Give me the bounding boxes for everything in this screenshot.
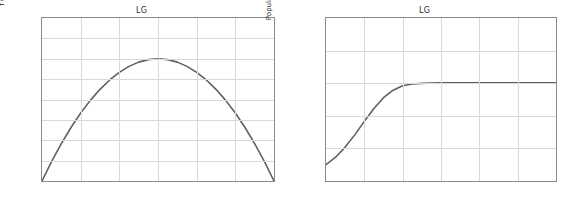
x-tick-label: 5 bbox=[516, 181, 520, 182]
y-tick-label: 50 bbox=[41, 157, 42, 165]
y-axis-label-left: f (N) bbox=[0, 0, 6, 6]
x-tick-mark bbox=[235, 181, 236, 182]
x-tick-label: 1 bbox=[362, 181, 366, 182]
x-tick-mark bbox=[158, 181, 159, 182]
chart-panel-left: LG 0501001502002503003504000100200300400… bbox=[0, 0, 283, 208]
gridline-vertical bbox=[479, 18, 480, 181]
x-tick-label: 200 bbox=[113, 181, 125, 182]
x-tick-mark bbox=[80, 181, 81, 182]
x-tick-mark bbox=[364, 181, 365, 182]
y-tick-label: 300 bbox=[41, 55, 42, 63]
y-tick-label: 800 bbox=[325, 47, 326, 55]
y-tick-label: 250 bbox=[41, 75, 42, 83]
x-tick-label: 500 bbox=[229, 181, 241, 182]
gridline-vertical bbox=[518, 18, 519, 181]
gridline-vertical bbox=[441, 18, 442, 181]
x-tick-mark bbox=[42, 181, 43, 182]
x-tick-label: 4 bbox=[477, 181, 481, 182]
gridline-vertical bbox=[119, 18, 120, 181]
x-tick-label: 2 bbox=[401, 181, 405, 182]
gridline-vertical bbox=[403, 18, 404, 181]
y-axis-label-right: Population N bbox=[265, 0, 273, 20]
x-tick-mark bbox=[119, 181, 120, 182]
plot-area-left: 0501001502002503003504000100200300400500… bbox=[41, 17, 275, 182]
x-tick-label: 100 bbox=[74, 181, 86, 182]
gridline-vertical bbox=[364, 18, 365, 181]
x-tick-label: 3 bbox=[439, 181, 443, 182]
y-tick-label: 0 bbox=[325, 177, 326, 182]
chart-title-left: LG bbox=[0, 6, 283, 15]
y-tick-label: 600 bbox=[325, 79, 326, 87]
gridline-vertical bbox=[197, 18, 198, 181]
y-tick-label: 400 bbox=[325, 112, 326, 120]
y-tick-label: 100 bbox=[41, 136, 42, 144]
y-tick-label: 200 bbox=[325, 144, 326, 152]
gridline-vertical bbox=[235, 18, 236, 181]
y-tick-label: 400 bbox=[41, 17, 42, 22]
y-tick-label: 150 bbox=[41, 116, 42, 124]
y-tick-label: 200 bbox=[41, 96, 42, 104]
y-tick-label: 1000 bbox=[325, 17, 326, 22]
figure-row: LG 0501001502002503003504000100200300400… bbox=[0, 0, 566, 208]
x-tick-label: 6 bbox=[554, 181, 557, 182]
y-tick-label: 350 bbox=[41, 34, 42, 42]
gridline-vertical bbox=[81, 18, 82, 181]
x-tick-mark bbox=[326, 181, 327, 182]
x-tick-label: 600 bbox=[268, 181, 275, 182]
x-tick-mark bbox=[517, 181, 518, 182]
x-tick-label: 300 bbox=[152, 181, 164, 182]
x-tick-label: 0 bbox=[325, 181, 328, 182]
y-tick-label: 0 bbox=[41, 177, 42, 182]
x-tick-mark bbox=[402, 181, 403, 182]
chart-title-right: LG bbox=[283, 6, 566, 15]
x-tick-mark bbox=[196, 181, 197, 182]
x-tick-label: 400 bbox=[190, 181, 202, 182]
plot-area-right: 020040060080010000123456Time t bbox=[325, 17, 557, 182]
gridline-vertical bbox=[158, 18, 159, 181]
x-tick-mark bbox=[556, 181, 557, 182]
x-tick-label: 0 bbox=[41, 181, 44, 182]
x-tick-mark bbox=[479, 181, 480, 182]
x-tick-mark bbox=[441, 181, 442, 182]
x-tick-mark bbox=[274, 181, 275, 182]
chart-panel-right: LG 020040060080010000123456Time t Popula… bbox=[283, 0, 566, 208]
